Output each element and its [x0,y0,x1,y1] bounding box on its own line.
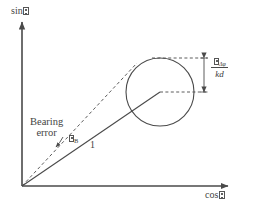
y-axis-label: sin [11,6,30,17]
unit-vector-label: 1 [90,140,95,151]
y-axis-label-text: sin [11,5,23,16]
x-axis-label-text: cos [205,189,218,200]
theta-symbol-icon [23,7,29,15]
bearing-error-line-1: Bearing [30,116,63,127]
epsilon-symbol-icon [69,135,74,142]
fraction-denominator: kd [211,69,228,79]
sigma-subscript: Δφ [219,61,226,67]
sigma-over-kd-fraction: Δφ kd [211,56,228,79]
fraction-numerator: Δφ [211,56,228,67]
bearing-error-line-2: error [30,127,63,138]
bearing-error-angle-label: B [68,134,78,145]
angle-subscript: B [74,137,78,144]
diagram-canvas [0,0,254,211]
bearing-error-label: Bearing error [30,116,63,138]
bearing-error-diagram: sin cos Bearing error B 1 Δφ kd [0,0,254,211]
sigma-symbol-icon [214,58,219,65]
x-axis-label: cos [205,190,225,201]
theta-symbol-icon [219,191,225,199]
